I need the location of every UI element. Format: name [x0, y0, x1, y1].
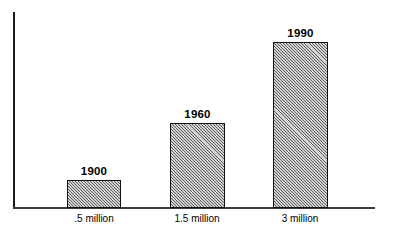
bar-1900[interactable] — [67, 180, 121, 208]
bar-value-label-1900: 1900 — [67, 165, 121, 178]
y-axis-line — [13, 12, 15, 209]
category-label-2: 3 million — [255, 213, 345, 225]
bar-1990[interactable] — [273, 42, 328, 208]
category-label-1: 1.5 million — [152, 213, 242, 225]
bar-chart: 1900 .5 million 1960 1.5 million 1990 3 … — [0, 0, 393, 235]
bar-value-label-1990: 1990 — [273, 27, 328, 40]
category-label-0: .5 million — [49, 213, 139, 225]
bar-value-label-1960: 1960 — [170, 108, 225, 121]
bar-1960[interactable] — [170, 123, 225, 208]
